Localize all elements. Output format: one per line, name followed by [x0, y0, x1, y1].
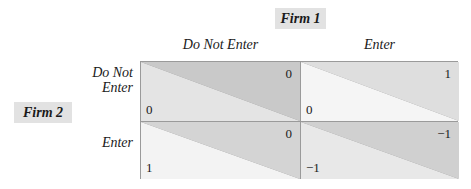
- firm-1-payoff: 0: [286, 127, 293, 141]
- payoff-matrix: 0 0 1 0 0 1 −1 −1: [140, 61, 458, 179]
- firm-2-payoff: 0: [146, 103, 153, 117]
- diagonal-shading: [141, 122, 300, 179]
- cell-donotenter-donotenter: 0 0: [141, 62, 300, 121]
- cell-enter-enter: −1 −1: [301, 122, 459, 179]
- firm-1-payoff: 0: [286, 67, 293, 81]
- diagonal-shading: [301, 62, 459, 121]
- firm-1-payoff: −1: [437, 127, 451, 141]
- row-header-line-1: Do Not: [92, 65, 133, 80]
- firm-2-label-text: Firm 2: [23, 105, 63, 121]
- diagonal-shading: [301, 122, 459, 179]
- firm-1-payoff: 1: [445, 67, 452, 81]
- row-header-do-not-enter: Do Not Enter: [92, 65, 133, 95]
- firm-1-label-text: Firm 1: [280, 11, 320, 27]
- cell-enter-donotenter: 0 1: [141, 122, 300, 179]
- column-header-enter: Enter: [300, 36, 459, 54]
- firm-1-label: Firm 1: [275, 8, 326, 29]
- row-header-line-1: Enter: [102, 135, 133, 150]
- row-header-line-2: Enter: [92, 80, 133, 95]
- cell-donotenter-enter: 1 0: [301, 62, 459, 121]
- firm-2-label: Firm 2: [14, 102, 72, 123]
- firm-2-payoff: 0: [306, 103, 313, 117]
- firm-2-payoff: 1: [146, 161, 153, 175]
- row-header-enter: Enter: [102, 135, 133, 150]
- column-header-do-not-enter: Do Not Enter: [141, 36, 300, 54]
- diagonal-shading: [141, 62, 300, 121]
- firm-2-payoff: −1: [306, 161, 320, 175]
